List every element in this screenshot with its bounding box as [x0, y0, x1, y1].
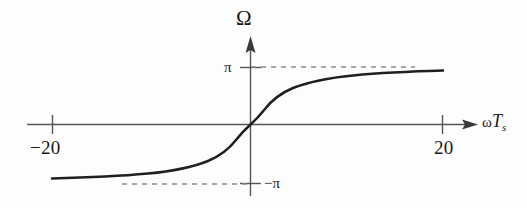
x-tick-label-right: 20 [434, 138, 454, 157]
x-axis-title-t: T [492, 111, 502, 131]
figure-container: Ω π −π −20 20 ωTs [0, 0, 527, 208]
y-tick-label-neg-pi: −π [264, 176, 280, 191]
x-axis-title: ωTs [482, 112, 506, 133]
x-axis-title-subscript: s [502, 121, 506, 133]
y-axis-title: Ω [236, 8, 252, 29]
y-tick-label-pi: π [224, 60, 232, 75]
x-axis-title-omega: ω [482, 114, 492, 130]
x-tick-label-left: −20 [30, 138, 61, 157]
